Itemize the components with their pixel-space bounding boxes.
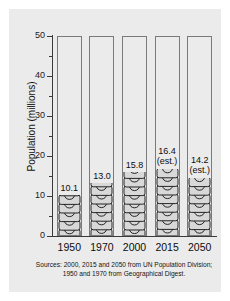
y-tick-label-text: 10 [23,191,45,200]
bar-column-frame[interactable] [89,36,114,236]
x-axis-line [52,236,217,237]
bar-fill-pictogram [156,169,179,235]
source-note-line-1: Sources: 2000, 2015 and 2050 from UN Pop… [21,260,227,269]
plot-area [53,36,216,236]
bar-value-number: 10.1 [61,183,79,193]
bar-value-label: 13.0 [82,171,122,181]
y-tick-label-text: 40 [23,71,45,80]
y-tick-label: 30 [21,111,45,120]
source-note: Sources: 2000, 2015 and 2050 from UN Pop… [21,260,227,278]
bar-value-label: 14.2(est.) [180,155,220,175]
y-tick-label: 50 [21,31,45,40]
chart-panel: Population (millions) 01020304050 195019… [9,9,221,292]
bar-value-estimate-note: (est.) [180,165,220,175]
bar-value-number: 15.8 [126,160,144,170]
chart-figure: Population (millions) 01020304050 195019… [0,0,230,301]
y-tick-label-text: 20 [23,151,45,160]
bar-fill-pictogram [58,195,81,235]
x-tick-label: 2050 [180,241,220,253]
source-note-line-2: 1950 and 1970 from Geographical Digest. [21,269,227,278]
bar-column-frame[interactable] [57,36,82,236]
bar-fill-pictogram [188,178,211,235]
y-tick-label-text: 50 [23,31,45,40]
y-tick-label: 20 [21,151,45,160]
y-tick-label-text: 0 [23,231,45,240]
y-tick-label-text: 30 [23,111,45,120]
bar-value-label: 10.1 [49,183,89,193]
y-tick-major [47,236,53,237]
bar-column-frame[interactable] [155,36,180,236]
y-tick-label: 10 [21,191,45,200]
y-tick-label: 0 [21,231,45,240]
y-tick-label: 40 [21,71,45,80]
bar-column-frame[interactable] [122,36,147,236]
bar-fill-pictogram [123,172,146,235]
bar-value-number: 16.4 [158,146,176,156]
bar-column-frame[interactable] [187,36,212,236]
bar-value-number: 13.0 [93,171,111,181]
bar-fill-pictogram [90,183,113,235]
bar-value-number: 14.2 [191,155,209,165]
